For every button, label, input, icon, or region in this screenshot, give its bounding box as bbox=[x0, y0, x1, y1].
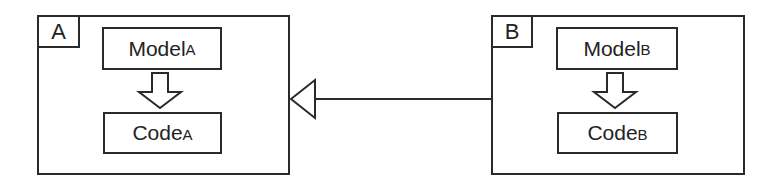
connectors bbox=[0, 0, 784, 184]
down-block-arrow-icon-a bbox=[139, 73, 181, 108]
down-block-arrow-icon-b bbox=[594, 73, 636, 108]
hollow-triangle-arrowhead-icon bbox=[291, 80, 315, 118]
